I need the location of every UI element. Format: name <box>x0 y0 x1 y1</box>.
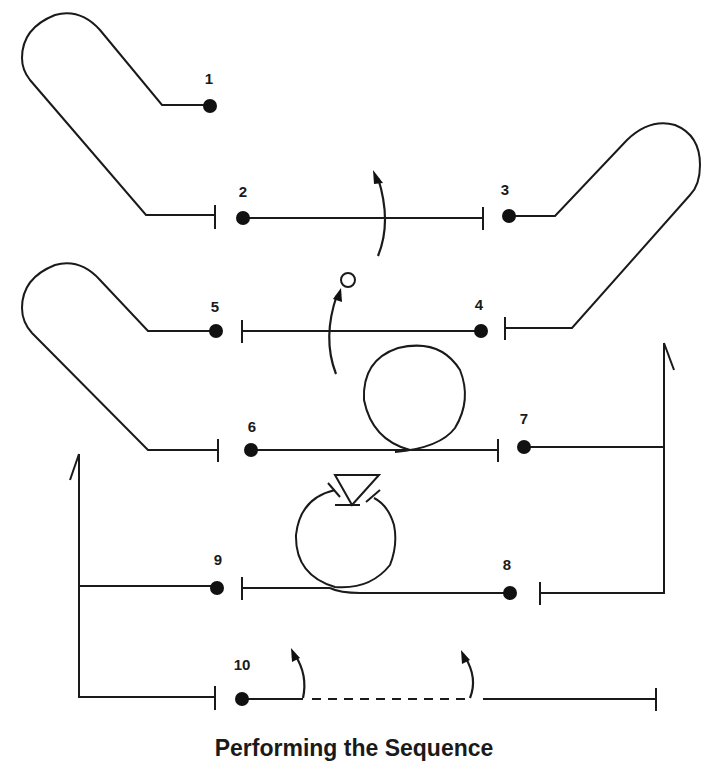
position-dot-7 <box>517 440 531 454</box>
loop-circle <box>364 346 465 452</box>
position-dot-5 <box>209 324 223 338</box>
position-label-7: 7 <box>520 411 528 426</box>
path-7-to-8 <box>540 343 664 593</box>
diagram-title: Performing the Sequence <box>0 735 708 762</box>
tick-right <box>664 343 674 370</box>
position-dot-8 <box>503 586 517 600</box>
path-5-to-6 <box>22 263 218 450</box>
position-label-8: 8 <box>503 557 511 572</box>
path-3-to-4 <box>505 123 700 328</box>
position-dot-10 <box>235 692 249 706</box>
position-label-4: 4 <box>475 297 483 312</box>
position-dot-6 <box>244 443 258 457</box>
position-label-6: 6 <box>248 419 256 434</box>
position-dot-1 <box>203 99 217 113</box>
arrow-turn-4 <box>465 657 473 698</box>
position-label-10: 10 <box>234 657 251 672</box>
position-label-9: 9 <box>214 552 222 567</box>
arrowhead-1 <box>373 170 383 184</box>
tick-left <box>70 454 79 480</box>
position-dot-4 <box>474 324 488 338</box>
path-1-to-2 <box>22 13 215 215</box>
position-dot-3 <box>502 209 516 223</box>
position-label-2: 2 <box>239 184 247 199</box>
position-dot-9 <box>210 581 224 595</box>
lane-8-9-b <box>330 588 510 593</box>
sequence-diagram <box>0 0 708 777</box>
position-label-1: 1 <box>205 71 213 86</box>
arrow-turn-3 <box>295 655 304 698</box>
ball-icon <box>341 273 355 287</box>
position-label-5: 5 <box>211 299 219 314</box>
triangle-bar-left <box>328 483 340 497</box>
triangle-icon <box>335 475 379 505</box>
position-dot-2 <box>236 211 250 225</box>
position-label-3: 3 <box>501 182 509 197</box>
arrow-turn-2 <box>329 295 337 374</box>
path-9-to-10 <box>79 454 215 697</box>
